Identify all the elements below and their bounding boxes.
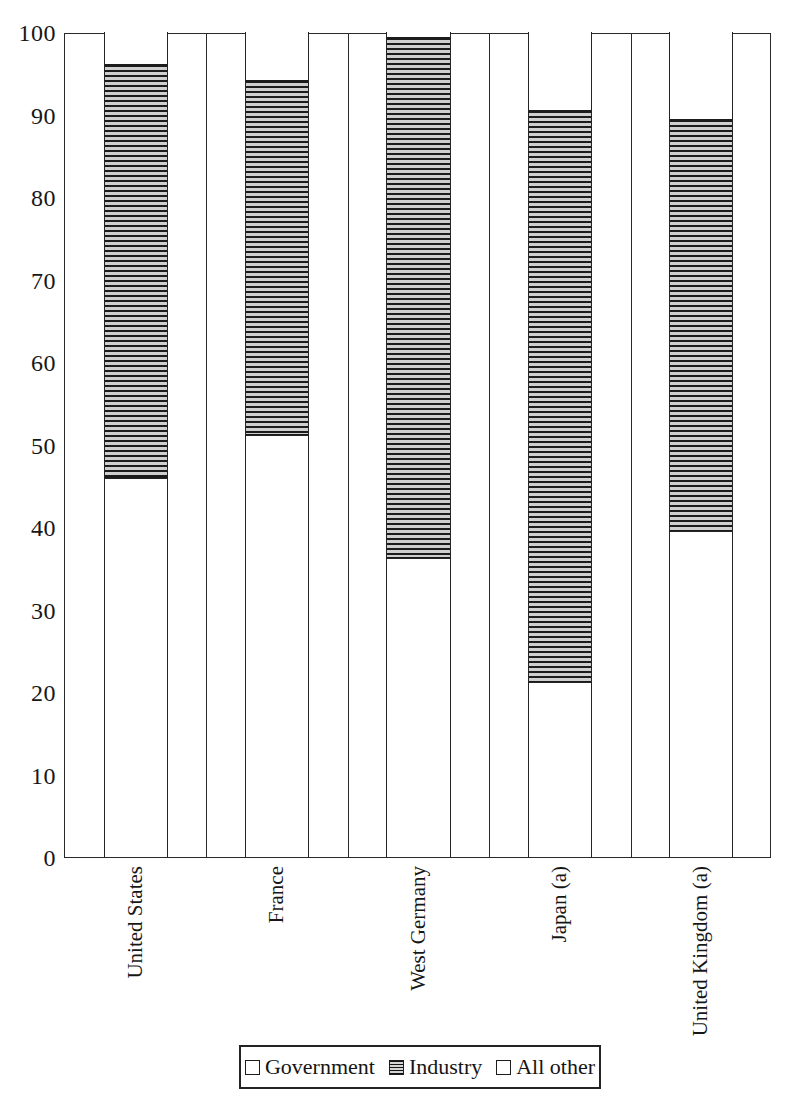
stacked-bar[interactable] <box>528 32 592 857</box>
stacked-bar[interactable] <box>669 32 733 857</box>
y-axis-tick-label: 100 <box>0 21 56 45</box>
bar-segment-government[interactable] <box>529 682 591 857</box>
category-divider <box>489 34 490 857</box>
legend-entry[interactable]: Industry <box>389 1056 482 1078</box>
y-axis-tick-label: 90 <box>0 104 56 128</box>
open-square-icon <box>496 1060 511 1075</box>
bar-segment-industry[interactable] <box>670 119 732 532</box>
category-divider <box>348 34 349 857</box>
y-axis-tick-label: 0 <box>0 846 56 870</box>
bar-segment-industry[interactable] <box>246 80 308 435</box>
y-axis: 0102030405060708090100 <box>0 0 56 1114</box>
bar-segment-all-other[interactable] <box>246 32 308 80</box>
x-axis-tick-label: France <box>266 866 287 923</box>
category-divider <box>206 34 207 857</box>
hatched-square-icon <box>389 1060 404 1075</box>
open-square-icon <box>245 1060 260 1075</box>
y-axis-tick-label: 20 <box>0 681 56 705</box>
bar-segment-all-other[interactable] <box>105 32 167 64</box>
legend-label: All other <box>516 1056 595 1078</box>
stacked-bar[interactable] <box>245 32 309 857</box>
bar-segment-government[interactable] <box>387 558 449 857</box>
bar-segment-all-other[interactable] <box>529 32 591 110</box>
y-axis-tick-label: 10 <box>0 764 56 788</box>
bar-segment-industry[interactable] <box>529 110 591 683</box>
bar-segment-all-other[interactable] <box>670 32 732 119</box>
stacked-bar[interactable] <box>386 32 450 857</box>
x-axis-tick-label: United States <box>125 866 146 979</box>
bar-segment-all-other[interactable] <box>387 32 449 37</box>
category-divider <box>631 34 632 857</box>
chart-legend: GovernmentIndustryAll other <box>239 1045 601 1089</box>
y-axis-tick-label: 80 <box>0 186 56 210</box>
x-axis-tick-label: United Kingdom (a) <box>690 866 711 1036</box>
y-axis-tick-label: 70 <box>0 269 56 293</box>
bar-segment-industry[interactable] <box>105 64 167 477</box>
legend-entry[interactable]: All other <box>496 1056 595 1078</box>
chart-figure: 0102030405060708090100 United StatesFran… <box>0 0 791 1114</box>
x-axis: United StatesFranceWest GermanyJapan (a)… <box>64 860 771 1030</box>
legend-entry[interactable]: Government <box>245 1056 375 1078</box>
legend-label: Government <box>265 1056 375 1078</box>
legend-label: Industry <box>409 1056 482 1078</box>
bar-segment-industry[interactable] <box>387 37 449 558</box>
stacked-bar[interactable] <box>104 32 168 857</box>
y-axis-tick-label: 40 <box>0 516 56 540</box>
plot-area <box>64 33 771 858</box>
bar-segment-government[interactable] <box>105 478 167 858</box>
bar-segment-government[interactable] <box>246 435 308 857</box>
y-axis-tick-label: 50 <box>0 434 56 458</box>
x-axis-tick-label: West Germany <box>408 866 429 991</box>
bar-segment-government[interactable] <box>670 531 732 857</box>
y-axis-tick-label: 60 <box>0 351 56 375</box>
x-axis-tick-label: Japan (a) <box>549 866 570 942</box>
y-axis-tick-label: 30 <box>0 599 56 623</box>
